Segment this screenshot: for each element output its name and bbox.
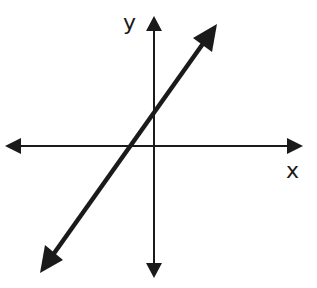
- line-upper-arrow-icon: [193, 24, 217, 52]
- x-axis-left-arrow-icon: [5, 138, 21, 154]
- y-axis-down-arrow-icon: [146, 263, 162, 278]
- coordinate-plane: [0, 0, 317, 288]
- y-axis-label: y: [123, 12, 136, 34]
- linear-function-line: [40, 24, 217, 273]
- x-axis-label: x: [286, 160, 299, 182]
- y-axis-up-arrow-icon: [146, 16, 162, 31]
- x-axis-right-arrow-icon: [287, 138, 303, 154]
